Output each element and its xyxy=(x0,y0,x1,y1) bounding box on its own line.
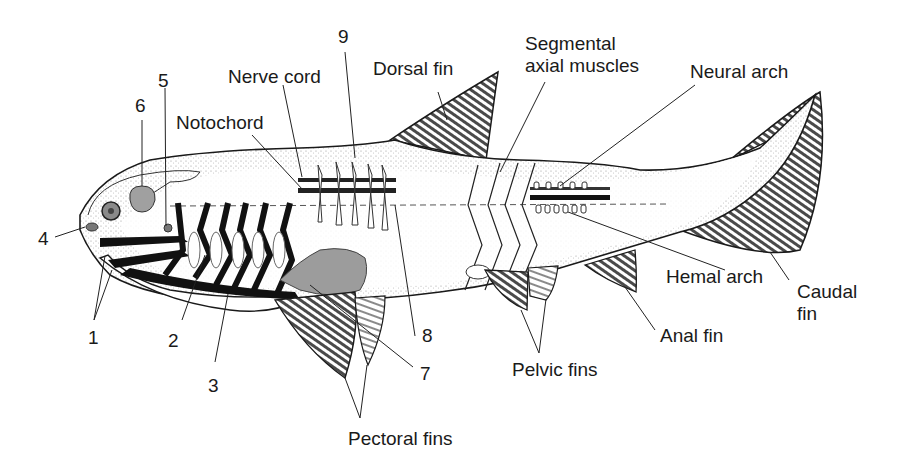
label-segmental-axial-muscles-line2: axial muscles xyxy=(525,55,639,76)
label-9: 9 xyxy=(338,26,349,47)
pelvic-fin-back xyxy=(528,266,558,300)
label-segmental-axial-muscles-line1: Segmental xyxy=(525,33,616,54)
pectoral-fin-back xyxy=(355,296,385,365)
label-pelvic-fins: Pelvic fins xyxy=(512,359,598,380)
label-anal-fin: Anal fin xyxy=(660,325,723,346)
label-caudal-fin-line1: Caudal xyxy=(797,281,857,302)
pectoral-fin-front xyxy=(275,292,356,378)
label-notochord: Notochord xyxy=(176,112,264,133)
label-nerve-cord: Nerve cord xyxy=(228,66,321,87)
label-hemal-arch: Hemal arch xyxy=(666,266,763,287)
label-3: 3 xyxy=(208,375,219,396)
label-neural-arch: Neural arch xyxy=(690,61,788,82)
spiracle xyxy=(164,224,172,232)
nostril xyxy=(86,223,98,231)
label-pectoral-fins: Pectoral fins xyxy=(348,428,453,449)
label-caudal-fin-line2: fin xyxy=(797,303,817,324)
label-1: 1 xyxy=(88,327,99,348)
label-6: 6 xyxy=(135,95,146,116)
label-dorsal-fin: Dorsal fin xyxy=(373,58,453,79)
label-5: 5 xyxy=(158,70,169,91)
label-8: 8 xyxy=(422,325,433,346)
label-7: 7 xyxy=(420,363,431,384)
brain-organ xyxy=(130,186,155,212)
label-4: 4 xyxy=(38,228,49,249)
fish-anatomy-diagram: 1 2 3 4 5 6 7 8 9 Notochord Nerve cord D… xyxy=(0,0,900,466)
label-2: 2 xyxy=(168,330,179,351)
pelvic-fin-front xyxy=(485,270,528,310)
